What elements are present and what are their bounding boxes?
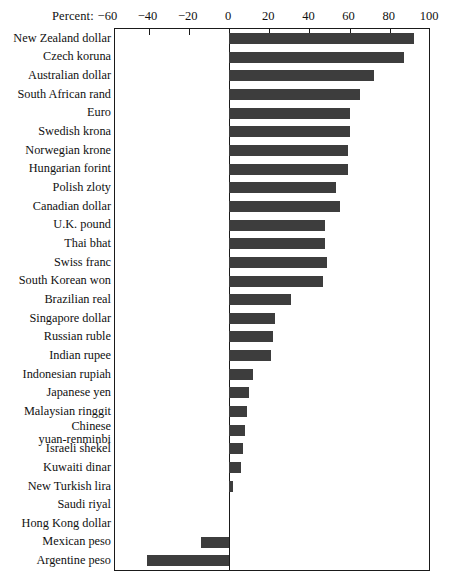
- bar-row: [115, 197, 429, 216]
- bar-row: [115, 29, 429, 48]
- bar: [229, 425, 245, 436]
- bar-row: [115, 514, 429, 533]
- bar: [229, 33, 414, 44]
- category-label: Brazilian real: [0, 293, 111, 306]
- x-axis-title: Percent:: [52, 9, 94, 24]
- bar: [229, 164, 348, 175]
- category-label: Polish zloty: [0, 181, 111, 194]
- x-tick-label-60: 60: [342, 9, 355, 24]
- bar: [229, 108, 350, 119]
- bar-row: [115, 48, 429, 67]
- category-label: Indonesian rupiah: [0, 368, 111, 381]
- bar-row: [115, 178, 429, 197]
- bar-row: [115, 402, 429, 421]
- bar: [229, 220, 325, 231]
- x-tick-label--20: −20: [178, 9, 198, 24]
- bar-row: [115, 85, 429, 104]
- bar: [229, 331, 273, 342]
- bar: [229, 313, 275, 324]
- bar-row: [115, 290, 429, 309]
- bar: [229, 126, 350, 137]
- x-axis-header: Percent: −60−40−20020406080100: [0, 0, 450, 29]
- category-label: Hungarian forint: [0, 162, 111, 175]
- bar-row: [115, 477, 429, 496]
- bar: [229, 294, 291, 305]
- category-label: South African rand: [0, 88, 111, 101]
- x-tick-label-20: 20: [262, 9, 275, 24]
- category-label: Saudi riyal: [0, 498, 111, 511]
- category-label: New Turkish lira: [0, 480, 111, 493]
- bar: [229, 145, 348, 156]
- category-label: U.K. pound: [0, 218, 111, 231]
- category-label: Euro: [0, 106, 111, 119]
- category-labels: New Zealand dollarCzech korunaAustralian…: [0, 28, 111, 571]
- bar-row: [115, 439, 429, 458]
- bar: [229, 369, 253, 380]
- bar: [229, 201, 340, 212]
- bar-row: [115, 272, 429, 291]
- category-label: Swedish krona: [0, 125, 111, 138]
- bar-row: [115, 66, 429, 85]
- bar-row: [115, 551, 429, 570]
- category-label: New Zealand dollar: [0, 32, 111, 45]
- bar-row: [115, 346, 429, 365]
- bar-row: [115, 216, 429, 235]
- bar: [229, 406, 247, 417]
- x-tick-label-100: 100: [420, 9, 439, 24]
- bar: [229, 481, 233, 492]
- category-label: South Korean won: [0, 274, 111, 287]
- category-label: Mexican peso: [0, 535, 111, 548]
- category-label: Australian dollar: [0, 69, 111, 82]
- bar: [229, 350, 271, 361]
- category-label: Thai bhat: [0, 237, 111, 250]
- x-tick-label-80: 80: [383, 9, 396, 24]
- bar: [147, 555, 229, 566]
- bar-row: [115, 383, 429, 402]
- bar: [201, 537, 229, 548]
- bar-row: [115, 533, 429, 552]
- bar-row: [115, 104, 429, 123]
- bar-row: [115, 458, 429, 477]
- category-label: Norwegian krone: [0, 144, 111, 157]
- bar-row: [115, 234, 429, 253]
- bar: [229, 182, 336, 193]
- bar: [229, 462, 241, 473]
- x-tick-label--40: −40: [138, 9, 158, 24]
- bar-row: [115, 327, 429, 346]
- bar-row: [115, 495, 429, 514]
- bar-row: [115, 365, 429, 384]
- category-label: Japanese yen: [0, 386, 111, 399]
- category-label: Czech koruna: [0, 50, 111, 63]
- category-label: Argentine peso: [0, 554, 111, 567]
- category-label: Israeli shekel: [0, 442, 111, 455]
- category-label: Kuwaiti dinar: [0, 461, 111, 474]
- category-label: Malaysian ringgit: [0, 405, 111, 418]
- bar: [229, 276, 323, 287]
- bar-row: [115, 253, 429, 272]
- category-label: Hong Kong dollar: [0, 517, 111, 530]
- bar-row: [115, 160, 429, 179]
- bar: [229, 238, 325, 249]
- bar-row: [115, 141, 429, 160]
- bar-rows: [115, 29, 429, 570]
- category-label: Swiss franc: [0, 256, 111, 269]
- bar: [229, 70, 374, 81]
- x-tick-label-0: 0: [225, 9, 231, 24]
- category-label: Indian rupee: [0, 349, 111, 362]
- bar-row: [115, 122, 429, 141]
- bar-row: [115, 309, 429, 328]
- bar: [229, 257, 327, 268]
- currency-appreciation-bar-chart: Percent: −60−40−20020406080100 New Zeala…: [0, 0, 450, 577]
- plot-area-frame: [114, 28, 430, 571]
- x-tick-label-40: 40: [302, 9, 315, 24]
- category-label: Russian ruble: [0, 330, 111, 343]
- bar: [229, 387, 249, 398]
- x-tick-label--60: −60: [98, 9, 118, 24]
- category-label: Singapore dollar: [0, 312, 111, 325]
- bar: [229, 52, 404, 63]
- bar-row: [115, 421, 429, 440]
- bar: [229, 89, 360, 100]
- bar: [229, 443, 243, 454]
- category-label: Canadian dollar: [0, 200, 111, 213]
